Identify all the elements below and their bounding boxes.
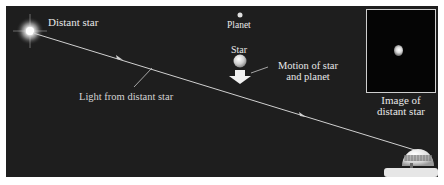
motion-arrow-icon: [229, 67, 268, 84]
star-label: Star: [231, 44, 247, 55]
inset-image-box: [366, 9, 436, 93]
image-label: Image of distant star: [364, 95, 438, 117]
distant-star-icon: [13, 14, 47, 48]
planet-label: Planet: [227, 20, 251, 31]
star-icon: [234, 55, 247, 68]
image-label-line2: distant star: [364, 106, 438, 117]
light-label: Light from distant star: [79, 91, 173, 102]
motion-label-line1: Motion of star: [268, 60, 348, 71]
telescope-dome-icon: [384, 149, 438, 177]
distant-star-image-icon: [394, 45, 403, 56]
motion-label-line2: and planet: [268, 71, 348, 82]
diagram-panel: Distant star Planet Star Motion of star …: [6, 6, 438, 177]
motion-label: Motion of star and planet: [268, 60, 348, 82]
planet-icon: [238, 13, 243, 18]
distant-star-label: Distant star: [48, 17, 98, 28]
